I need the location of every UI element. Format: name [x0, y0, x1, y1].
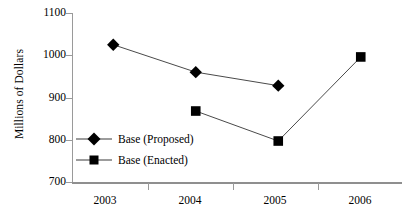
line-chart: Millions of Dollars 1100 1000 900 800 70…: [0, 0, 414, 224]
legend-item-base-proposed: Base (Proposed): [74, 128, 194, 149]
x-axis-line: [72, 182, 402, 184]
data-point-base-proposed--2004: [190, 66, 202, 78]
data-point-base-enacted--2004: [191, 106, 201, 116]
y-tick-label-900: 900: [26, 91, 66, 103]
y-tick-mark-1000: [66, 55, 72, 56]
x-tick-mark-1: [148, 183, 149, 190]
series-line-1: [196, 57, 361, 141]
y-tick-mark-900: [66, 98, 72, 99]
chart-legend: Base (Proposed) Base (Enacted): [74, 128, 194, 170]
x-tick-label-2005: 2005: [240, 194, 310, 206]
data-point-base-enacted--2006: [356, 52, 366, 62]
square-marker-icon: [74, 151, 114, 169]
legend-label-base-proposed: Base (Proposed): [114, 133, 194, 145]
y-tick-mark-1100: [66, 13, 72, 14]
series-line-0: [113, 45, 278, 86]
y-tick-mark-700: [66, 182, 72, 183]
y-tick-label-800: 800: [26, 133, 66, 145]
legend-label-base-enacted: Base (Enacted): [114, 154, 188, 166]
y-tick-label-700: 700: [26, 175, 66, 187]
legend-item-base-enacted: Base (Enacted): [74, 149, 194, 170]
x-tick-mark-3: [318, 183, 319, 190]
data-point-base-enacted--2005: [273, 136, 283, 146]
y-tick-label-1000: 1000: [26, 48, 66, 60]
x-tick-mark-2: [233, 183, 234, 190]
series-plot: [0, 0, 414, 224]
y-axis-line: [72, 13, 73, 183]
y-axis-title: Millions of Dollars: [13, 9, 25, 179]
x-tick-label-2006: 2006: [325, 194, 395, 206]
data-point-base-proposed--2005: [272, 79, 284, 91]
y-tick-label-1100: 1100: [26, 6, 66, 18]
diamond-marker-icon: [74, 130, 114, 148]
y-tick-mark-800: [66, 140, 72, 141]
data-point-base-proposed--2003: [107, 38, 119, 50]
x-tick-label-2003: 2003: [70, 194, 140, 206]
x-tick-label-2004: 2004: [155, 194, 225, 206]
